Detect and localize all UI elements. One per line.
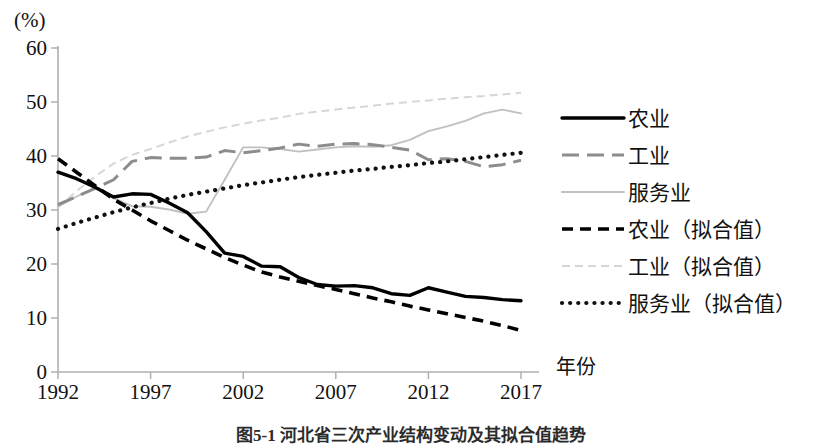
x-tick-label: 1997 bbox=[130, 380, 172, 404]
x-tick-labels: 199219972002200720122017 bbox=[37, 380, 542, 404]
x-tick-label: 2012 bbox=[407, 380, 449, 404]
figure-caption: 图5-1 河北省三次产业结构变动及其拟合值趋势 bbox=[0, 421, 822, 444]
series-line bbox=[58, 172, 521, 301]
legend-item[interactable]: 工业 bbox=[562, 144, 670, 168]
legend-label: 服务业（拟合值） bbox=[628, 292, 796, 316]
legend-label: 农业 bbox=[628, 107, 670, 131]
y-tick-label: 30 bbox=[26, 198, 47, 222]
x-tick-label: 2017 bbox=[500, 380, 542, 404]
legend-item[interactable]: 服务业 bbox=[562, 181, 691, 205]
x-tick-label: 1992 bbox=[37, 380, 79, 404]
legend-item[interactable]: 工业（拟合值） bbox=[562, 255, 775, 279]
legend-label: 服务业 bbox=[628, 181, 691, 205]
y-tick-labels: 0102030405060 bbox=[26, 36, 47, 384]
legend-label: 工业（拟合值） bbox=[628, 255, 775, 279]
y-axis-unit-label: (%) bbox=[14, 8, 45, 32]
line-chart: 0102030405060 199219972002200720122017 农… bbox=[0, 0, 822, 444]
legend-item[interactable]: 农业 bbox=[562, 107, 670, 131]
chart-legend: 农业工业服务业农业（拟合值）工业（拟合值）服务业（拟合值） bbox=[562, 107, 796, 316]
chart-axes bbox=[51, 46, 539, 379]
y-tick-label: 60 bbox=[26, 36, 47, 60]
y-tick-label: 50 bbox=[26, 90, 47, 114]
x-axis-title: 年份 bbox=[556, 356, 596, 378]
legend-label: 农业（拟合值） bbox=[628, 218, 775, 242]
chart-series-group bbox=[58, 93, 521, 331]
legend-item[interactable]: 农业（拟合值） bbox=[562, 218, 775, 242]
series-line bbox=[58, 110, 521, 214]
y-tick-label: 20 bbox=[26, 252, 47, 276]
x-tick-label: 2002 bbox=[222, 380, 264, 404]
series-line bbox=[58, 159, 521, 331]
legend-item[interactable]: 服务业（拟合值） bbox=[562, 292, 796, 316]
legend-label: 工业 bbox=[628, 144, 670, 168]
y-tick-label: 10 bbox=[26, 306, 47, 330]
figure-container: 0102030405060 199219972002200720122017 农… bbox=[0, 0, 822, 444]
x-tick-label: 2007 bbox=[315, 380, 357, 404]
y-tick-label: 40 bbox=[26, 144, 47, 168]
